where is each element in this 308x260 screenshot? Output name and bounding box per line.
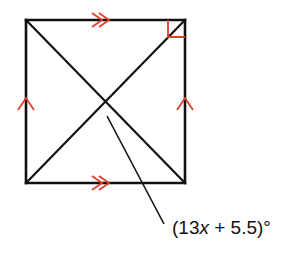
angle-label: (13x + 5.5)° [172, 217, 271, 238]
diagonals [26, 20, 185, 183]
geometry-diagram: (13x + 5.5)° [0, 0, 308, 260]
